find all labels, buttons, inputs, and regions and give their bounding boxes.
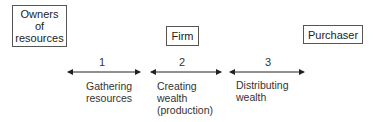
stage-1-label: Gathering resources — [86, 80, 132, 104]
stage-1-number: 1 — [99, 56, 105, 68]
stage-2-number: 2 — [179, 56, 185, 68]
stage-3-label: Distributing wealth — [236, 79, 289, 103]
stage-2-label: Creating wealth (production) — [157, 80, 213, 116]
stage-3-number: 3 — [265, 56, 271, 68]
